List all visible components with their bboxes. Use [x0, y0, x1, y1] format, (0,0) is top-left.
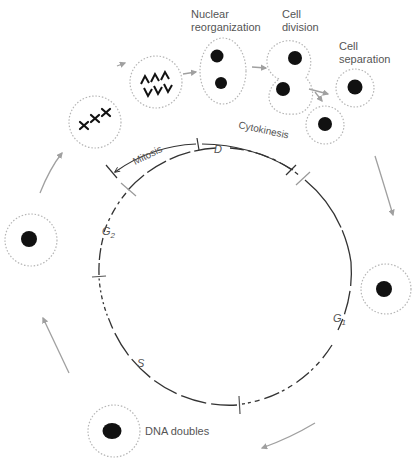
chromosomes-metaphase — [80, 109, 110, 129]
nucleus-division-bottom — [276, 82, 290, 96]
phase-ticks — [92, 172, 310, 414]
nucleus-reorg-bottom — [215, 77, 227, 89]
label-cell-separation: Cell separation — [339, 40, 390, 65]
nucleus-g1 — [376, 281, 392, 297]
label-dna-doubles: DNA doubles — [145, 425, 210, 437]
cell-cycle-diagram: D G1 G2 S Mitosis Cytokinesis — [0, 0, 412, 460]
nucleus-dna-doubles — [103, 423, 122, 439]
g2-phase-arc — [99, 238, 103, 275]
arrow-separation-a — [309, 89, 328, 94]
arrow-bottom-right — [262, 423, 315, 448]
s-phase-arc — [110, 322, 237, 405]
nucleus-g2 — [21, 231, 37, 247]
chromosomes-anaphase — [141, 72, 172, 96]
tick-s-end — [239, 396, 240, 414]
label-nuclear-reorganization: Nuclear reorganization — [191, 8, 261, 33]
g1-phase-arc-bottom — [242, 345, 332, 404]
g1-phase-arc — [305, 180, 351, 262]
cell-dividing — [267, 41, 313, 114]
nucleus-separated-upper — [348, 80, 363, 95]
label-g1: G1 — [333, 312, 346, 327]
arrow-separation-b — [315, 92, 322, 101]
s-phase-arc-upper — [99, 277, 110, 322]
arrow-top-left — [40, 153, 62, 193]
nucleus-division-top — [288, 51, 302, 65]
cell-metaphase — [69, 96, 121, 148]
cell-nuclear-reorganization — [200, 38, 246, 104]
cells — [5, 38, 411, 457]
arrow-anaphase-reorg — [183, 72, 196, 74]
label-mitosis: Mitosis — [131, 143, 164, 167]
label-cell-division: Cell division — [282, 8, 319, 33]
label-g2: G2 — [102, 225, 116, 240]
arrow-right-top — [375, 156, 393, 215]
arrow-left-bottom — [43, 318, 69, 373]
arrow-reorg-division — [252, 67, 266, 68]
tick-d-start — [121, 183, 136, 196]
nucleus-reorg-top — [211, 50, 224, 63]
cell-anaphase — [130, 56, 182, 108]
nucleus-separated-lower — [318, 117, 332, 131]
label-s: S — [137, 357, 145, 369]
tick-g2-start — [92, 276, 106, 277]
arrow-metaphase-anaphase — [117, 63, 125, 66]
label-cytokinesis: Cytokinesis — [238, 119, 290, 140]
nuclei — [21, 50, 392, 440]
